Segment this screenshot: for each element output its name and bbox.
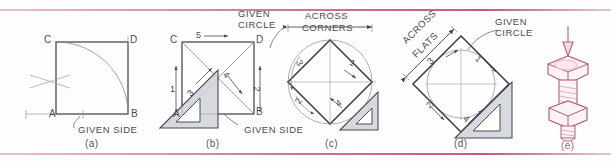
- across-corners-label-line2: CORNERS: [302, 22, 353, 33]
- panel-caption-a: (a): [85, 138, 98, 149]
- point-label-a-A: A: [49, 108, 56, 119]
- panel-caption-d: (d): [454, 138, 467, 149]
- panel-e-drawing: [548, 26, 588, 141]
- step-number-b-1: 1: [170, 84, 175, 94]
- panel-caption-c: (c): [325, 138, 338, 149]
- point-label-b-C: C: [170, 34, 177, 45]
- given-circle-label-c-line2: CIRCLE: [238, 19, 276, 30]
- figure-sheet: A B C D GIVEN SIDE (a) A B C D 1 2 3 4 5…: [0, 0, 611, 164]
- step-number-b-5: 5: [196, 30, 201, 40]
- panel-a-drawing: [26, 36, 128, 128]
- point-label-a-C: C: [44, 34, 51, 45]
- given-circle-label-c-line1: GIVEN: [238, 8, 270, 19]
- panel-caption-b: (b): [206, 138, 219, 149]
- given-side-label-b: GIVEN SIDE: [244, 124, 303, 135]
- given-side-label-a: GIVEN SIDE: [78, 124, 137, 135]
- panel-caption-e: (e): [561, 140, 574, 151]
- point-label-b-B: B: [256, 106, 263, 117]
- point-label-b-D: D: [256, 34, 263, 45]
- given-circle-label-d-line2: CIRCLE: [495, 27, 533, 38]
- point-label-a-D: D: [130, 34, 137, 45]
- point-label-b-A: A: [173, 108, 180, 119]
- across-corners-label-line1: ACROSS: [305, 10, 348, 21]
- point-label-a-B: B: [131, 108, 138, 119]
- panel-c-drawing: [270, 24, 378, 130]
- given-circle-label-d-line1: GIVEN: [495, 16, 527, 27]
- step-number-b-2: 2: [252, 86, 262, 91]
